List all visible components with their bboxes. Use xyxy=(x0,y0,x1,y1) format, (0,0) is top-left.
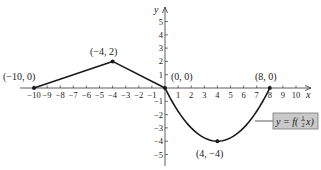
function-curve xyxy=(34,61,270,141)
function-graph: −10−9−8−7−6−5−4−3−2−11234567891054321−1−… xyxy=(0,0,321,170)
key-point-dot xyxy=(32,86,36,90)
x-tick-label: −2 xyxy=(134,90,143,100)
x-tick-label: 1 xyxy=(176,90,180,100)
y-tick-label: 5 xyxy=(159,17,163,27)
x-tick-label: −6 xyxy=(82,90,91,100)
key-point-dot xyxy=(111,59,115,63)
curve-segment xyxy=(113,61,165,88)
x-tick-label: 5 xyxy=(228,90,232,100)
x-tick-label: 9 xyxy=(281,90,285,100)
x-tick-label: 6 xyxy=(241,90,245,100)
x-tick-label: 3 xyxy=(202,90,206,100)
x-axis-label: x xyxy=(305,89,311,100)
fraction-numerator: 1 xyxy=(302,115,305,121)
x-tick-label: 2 xyxy=(189,90,193,100)
y-tick-label: −3 xyxy=(154,123,163,133)
x-tick-label: −7 xyxy=(69,90,78,100)
key-point-dot xyxy=(163,86,167,90)
y-tick-label: 2 xyxy=(159,56,163,66)
x-tick-label: −5 xyxy=(95,90,104,100)
y-tick-label: −4 xyxy=(154,136,164,146)
x-tick-label: −10 xyxy=(27,90,40,100)
function-label-tail: x) xyxy=(305,116,314,128)
point-label-neg4-2: (−4, 2) xyxy=(90,46,117,58)
y-tick-label: 1 xyxy=(159,70,163,80)
point-label-8-0: (8, 0) xyxy=(255,71,277,83)
y-tick-label: 4 xyxy=(159,30,164,40)
y-tick-label: −5 xyxy=(154,150,163,160)
function-label-box: y = f( 1 2 x) xyxy=(255,113,318,129)
y-tick-label: −1 xyxy=(154,96,163,106)
x-tick-label: −8 xyxy=(56,90,65,100)
function-label-text: y = f( xyxy=(275,116,299,128)
curve-segment xyxy=(34,61,113,88)
key-point-dot xyxy=(215,139,219,143)
x-tick-label: −9 xyxy=(43,90,52,100)
fraction-denominator: 2 xyxy=(302,122,305,128)
x-tick-label: −3 xyxy=(121,90,130,100)
y-tick-label: −2 xyxy=(154,110,163,120)
y-axis-label: y xyxy=(153,4,159,15)
x-tick-label: 10 xyxy=(292,90,301,100)
x-tick-label: 7 xyxy=(255,90,259,100)
point-label-neg10-0: (−10, 0) xyxy=(3,71,35,83)
x-tick-label: −4 xyxy=(108,90,118,100)
key-point-dot xyxy=(268,86,272,90)
y-tick-label: 3 xyxy=(159,43,163,53)
point-label-4-neg4: (4, −4) xyxy=(196,148,223,160)
x-tick-label: 4 xyxy=(215,90,220,100)
key-points xyxy=(32,59,272,143)
point-label-0-0: (0, 0) xyxy=(171,71,193,83)
